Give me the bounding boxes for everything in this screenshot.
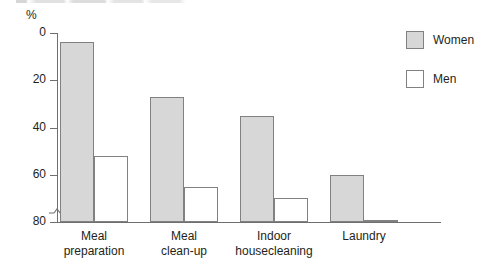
legend-item-women[interactable]: Women: [406, 31, 474, 49]
y-axis-tick-40: [50, 128, 57, 129]
y-axis-tick-label-wrap: 80: [16, 222, 46, 223]
legend: WomenMen: [406, 31, 474, 109]
bar-men-2: [184, 187, 218, 222]
x-axis-label-4: Laundry: [309, 229, 419, 244]
legend-item-men[interactable]: Men: [406, 70, 474, 88]
chart-figure: % 806040200 MealpreparationMealclean-upI…: [0, 0, 489, 271]
plot-area: [57, 33, 440, 222]
legend-label: Women: [433, 33, 474, 47]
legend-swatch-men: [406, 70, 424, 88]
bar-men-1: [94, 156, 128, 222]
y-axis-tick-label-wrap: 40: [16, 128, 46, 129]
bar-men-3: [274, 198, 308, 222]
cut-off-caption-remnant: [16, 0, 186, 3]
x-axis-label-line: housecleaning: [219, 244, 329, 259]
y-axis-tick-label-wrap: 20: [16, 80, 46, 81]
y-axis-tick-label: 0: [22, 25, 46, 39]
bar-women-3: [240, 116, 274, 222]
x-axis-label-line: Laundry: [309, 229, 419, 244]
y-axis-tick-label-wrap: 0: [16, 33, 46, 34]
legend-label: Men: [433, 72, 456, 86]
bar-women-4: [330, 175, 364, 222]
bar-men-4: [364, 220, 398, 222]
legend-swatch-women: [406, 31, 424, 49]
y-axis-tick-0: [50, 222, 57, 223]
y-axis-tick-label: 80: [22, 214, 46, 228]
y-axis-tick-label-wrap: 60: [16, 175, 46, 176]
y-axis-tick-20: [50, 175, 57, 176]
y-axis-tick-60: [50, 80, 57, 81]
y-axis-unit-label: %: [26, 8, 37, 22]
y-axis-tick-label: 60: [22, 167, 46, 181]
y-axis-tick-label: 40: [22, 120, 46, 134]
y-axis-tick-80: [50, 33, 57, 34]
bar-women-2: [150, 97, 184, 222]
x-axis-line: [57, 222, 441, 223]
bar-women-1: [60, 42, 94, 222]
y-axis-tick-label: 20: [22, 72, 46, 86]
